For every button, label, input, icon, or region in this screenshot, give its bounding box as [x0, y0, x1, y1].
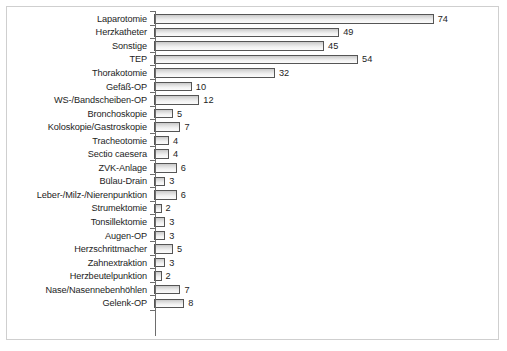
- bar-value-label: 3: [165, 231, 174, 241]
- axis-tick: [150, 310, 156, 311]
- bar-track: 6: [152, 161, 498, 175]
- chart-frame: Laparotomie74Herzkatheter49Sonstige45TEP…: [6, 6, 499, 340]
- bar-row: Bülau-Drain3: [7, 175, 498, 189]
- bar-category-label: Herzschrittmacher: [7, 244, 152, 254]
- bar-category-label: Bronchoskopie: [7, 109, 152, 119]
- bar-row: Tonsillektomie3: [7, 215, 498, 229]
- axis-tick: [150, 92, 156, 93]
- bar-category-label: Augen-OP: [7, 231, 152, 241]
- bar-row: Bronchoskopie5: [7, 107, 498, 121]
- bar-value-label: 5: [173, 109, 182, 119]
- bar: [154, 299, 184, 309]
- axis-tick: [150, 106, 156, 107]
- bar-category-label: Zahnextraktion: [7, 258, 152, 268]
- bar-value-label: 4: [169, 149, 178, 159]
- bar-value-label: 7: [180, 122, 189, 132]
- bar-value-label: 12: [199, 95, 213, 105]
- bar: [154, 149, 169, 159]
- bar-value-label: 49: [339, 27, 353, 37]
- axis-tick: [150, 11, 156, 12]
- bar: [154, 82, 192, 92]
- bar-value-label: 2: [162, 271, 171, 281]
- bar-value-label: 3: [165, 258, 174, 268]
- bar-row: Koloskopie/Gastroskopie7: [7, 120, 498, 134]
- bar-category-label: Leber-/Milz-/Nierenpunktion: [7, 190, 152, 200]
- bar: [154, 109, 173, 119]
- bar-category-label: Gefäß-OP: [7, 82, 152, 92]
- bar-row: Strumektomie2: [7, 202, 498, 216]
- bar-row: Sonstige45: [7, 39, 498, 53]
- bar-value-label: 3: [165, 176, 174, 186]
- bar: [154, 28, 339, 38]
- bar-value-label: 8: [184, 298, 193, 308]
- plot-area: Laparotomie74Herzkatheter49Sonstige45TEP…: [7, 7, 498, 339]
- bar-category-label: Koloskopie/Gastroskopie: [7, 122, 152, 132]
- axis-tick: [150, 268, 156, 269]
- bar-category-label: Thorakotomie: [7, 68, 152, 78]
- bar-category-label: ZVK-Anlage: [7, 163, 152, 173]
- bar-track: 45: [152, 39, 498, 53]
- bar-row: Leber-/Milz-/Nierenpunktion6: [7, 188, 498, 202]
- bar-category-label: Sectio caesera: [7, 149, 152, 159]
- axis-tick: [150, 160, 156, 161]
- bar-track: 4: [152, 147, 498, 161]
- bar-value-label: 54: [358, 54, 372, 64]
- bar-row: Laparotomie74: [7, 12, 498, 26]
- bar-value-label: 3: [165, 217, 174, 227]
- bar-track: 4: [152, 134, 498, 148]
- bar-category-label: Strumektomie: [7, 203, 152, 213]
- bar-row: Thorakotomie32: [7, 66, 498, 80]
- axis-tick: [150, 187, 156, 188]
- bar: [154, 55, 358, 65]
- bar-rows-container: Laparotomie74Herzkatheter49Sonstige45TEP…: [7, 12, 498, 335]
- bar-row: Augen-OP3: [7, 229, 498, 243]
- bar: [154, 122, 180, 132]
- bar-track: 2: [152, 202, 498, 216]
- bar-track: 12: [152, 93, 498, 107]
- axis-tick: [150, 228, 156, 229]
- axis-tick: [150, 79, 156, 80]
- bar-category-label: TEP: [7, 54, 152, 64]
- bar-row: ZVK-Anlage6: [7, 161, 498, 175]
- bar-value-label: 5: [173, 244, 182, 254]
- bar-row: Gefäß-OP10: [7, 80, 498, 94]
- axis-tick: [150, 65, 156, 66]
- bar: [154, 244, 173, 254]
- bar: [154, 41, 324, 51]
- bar-track: 5: [152, 242, 498, 256]
- bar-track: 54: [152, 53, 498, 67]
- axis-tick: [150, 201, 156, 202]
- bar-row: Sectio caesera4: [7, 147, 498, 161]
- bar-track: 3: [152, 229, 498, 243]
- bar-category-label: Laparotomie: [7, 14, 152, 24]
- bar-track: 3: [152, 215, 498, 229]
- bar-track: 3: [152, 256, 498, 270]
- bar-category-label: Tonsillektomie: [7, 217, 152, 227]
- bar: [154, 68, 275, 78]
- axis-tick: [150, 38, 156, 39]
- bar-value-label: 10: [192, 82, 206, 92]
- bar-value-label: 32: [275, 68, 289, 78]
- bar-value-label: 2: [162, 203, 171, 213]
- bar-category-label: Nase/Nasennebenhöhlen: [7, 285, 152, 295]
- bar-track: 32: [152, 66, 498, 80]
- axis-tick: [150, 282, 156, 283]
- bar-category-label: Bülau-Drain: [7, 176, 152, 186]
- axis-tick: [150, 146, 156, 147]
- bar-track: 6: [152, 188, 498, 202]
- bar-track: 74: [152, 12, 498, 26]
- axis-tick: [150, 174, 156, 175]
- bar-row: Herzkatheter49: [7, 26, 498, 40]
- bar-value-label: 4: [169, 136, 178, 146]
- bar-track: 5: [152, 107, 498, 121]
- bar-category-label: Sonstige: [7, 41, 152, 51]
- bar-track: 2: [152, 269, 498, 283]
- axis-tick: [150, 119, 156, 120]
- bar-row: WS-/Bandscheiben-OP12: [7, 93, 498, 107]
- bar-category-label: Herzbeutelpunktion: [7, 271, 152, 281]
- bar-row: Herzbeutelpunktion2: [7, 269, 498, 283]
- bar-value-label: 6: [177, 190, 186, 200]
- axis-tick: [150, 255, 156, 256]
- axis-tick: [150, 241, 156, 242]
- bar: [154, 285, 180, 295]
